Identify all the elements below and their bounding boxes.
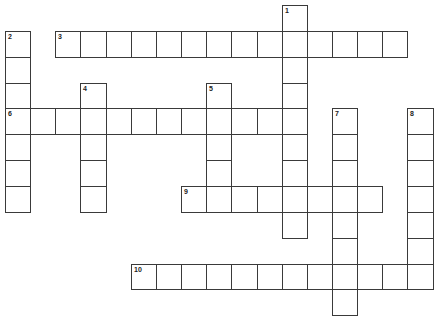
crossword-cell[interactable]: [332, 186, 358, 213]
crossword-cell[interactable]: [5, 57, 31, 84]
crossword-cell[interactable]: 7: [332, 108, 358, 135]
crossword-cell[interactable]: [231, 186, 258, 213]
crossword-cell[interactable]: [206, 134, 232, 161]
crossword-cell[interactable]: [131, 108, 157, 135]
crossword-cell[interactable]: [80, 108, 107, 135]
crossword-cell[interactable]: [5, 134, 31, 161]
crossword-cell[interactable]: [5, 83, 31, 109]
crossword-cell[interactable]: [382, 264, 408, 290]
crossword-cell[interactable]: 10: [131, 264, 157, 290]
crossword-cell[interactable]: [80, 160, 107, 187]
crossword-cell[interactable]: [332, 31, 358, 58]
crossword-cell[interactable]: [257, 186, 283, 213]
crossword-cell[interactable]: [80, 134, 107, 161]
crossword-cell[interactable]: [106, 31, 132, 58]
crossword-cell[interactable]: [30, 108, 56, 135]
clue-number: 1: [285, 7, 289, 14]
crossword-cell[interactable]: [5, 186, 31, 213]
crossword-cell[interactable]: [332, 289, 358, 316]
crossword-cell[interactable]: [282, 160, 308, 187]
crossword-cell[interactable]: [55, 108, 81, 135]
crossword-cell[interactable]: 4: [80, 83, 107, 109]
crossword-cell[interactable]: [407, 264, 434, 290]
crossword-cell[interactable]: [106, 108, 132, 135]
crossword-cell[interactable]: [307, 264, 333, 290]
crossword-cell[interactable]: [307, 31, 333, 58]
crossword-cell[interactable]: [332, 264, 358, 290]
crossword-cell[interactable]: 3: [55, 31, 81, 58]
crossword-cell[interactable]: [357, 31, 383, 58]
crossword-cell[interactable]: [282, 83, 308, 109]
crossword-cell[interactable]: [332, 238, 358, 265]
crossword-cell[interactable]: [206, 31, 232, 58]
crossword-cell[interactable]: 5: [206, 83, 232, 109]
crossword-cell[interactable]: [181, 108, 207, 135]
crossword-cell[interactable]: [181, 264, 207, 290]
clue-number: 5: [209, 85, 213, 92]
crossword-grid: 12634578910: [0, 0, 435, 322]
crossword-cell[interactable]: [407, 212, 434, 239]
crossword-cell[interactable]: [407, 238, 434, 265]
crossword-cell[interactable]: [407, 186, 434, 213]
crossword-cell[interactable]: 2: [5, 31, 31, 58]
crossword-cell[interactable]: [231, 31, 258, 58]
crossword-cell[interactable]: [156, 31, 182, 58]
crossword-cell[interactable]: [357, 264, 383, 290]
crossword-cell[interactable]: [80, 31, 107, 58]
crossword-cell[interactable]: [332, 160, 358, 187]
crossword-cell[interactable]: [382, 31, 408, 58]
crossword-cell[interactable]: [131, 31, 157, 58]
crossword-cell[interactable]: [206, 264, 232, 290]
crossword-cell[interactable]: [181, 31, 207, 58]
crossword-cell[interactable]: [156, 264, 182, 290]
crossword-cell[interactable]: [332, 134, 358, 161]
crossword-cell[interactable]: 6: [5, 108, 31, 135]
crossword-cell[interactable]: [257, 108, 283, 135]
crossword-cell[interactable]: [206, 160, 232, 187]
crossword-cell[interactable]: [5, 160, 31, 187]
crossword-cell[interactable]: [156, 108, 182, 135]
crossword-cell[interactable]: [206, 108, 232, 135]
crossword-cell[interactable]: [282, 186, 308, 213]
clue-number: 2: [8, 33, 12, 40]
clue-number: 9: [184, 188, 188, 195]
clue-number: 7: [335, 110, 339, 117]
crossword-cell[interactable]: [282, 31, 308, 58]
crossword-cell[interactable]: [282, 108, 308, 135]
clue-number: 6: [8, 110, 12, 117]
crossword-cell[interactable]: [407, 134, 434, 161]
crossword-cell[interactable]: [231, 264, 258, 290]
crossword-cell[interactable]: [357, 186, 383, 213]
clue-number: 4: [83, 85, 87, 92]
crossword-cell[interactable]: [206, 186, 232, 213]
crossword-cell[interactable]: [307, 186, 333, 213]
clue-number: 10: [134, 266, 142, 273]
crossword-cell[interactable]: 1: [282, 5, 308, 32]
crossword-cell[interactable]: 9: [181, 186, 207, 213]
crossword-cell[interactable]: [282, 212, 308, 239]
crossword-cell[interactable]: [282, 134, 308, 161]
crossword-cell[interactable]: [282, 57, 308, 84]
crossword-cell[interactable]: [231, 108, 258, 135]
crossword-cell[interactable]: [282, 264, 308, 290]
clue-number: 3: [58, 33, 62, 40]
crossword-cell[interactable]: [407, 160, 434, 187]
crossword-cell[interactable]: [257, 264, 283, 290]
crossword-cell[interactable]: [332, 212, 358, 239]
crossword-cell[interactable]: [80, 186, 107, 213]
crossword-cell[interactable]: 8: [407, 108, 434, 135]
crossword-cell[interactable]: [257, 31, 283, 58]
clue-number: 8: [410, 110, 414, 117]
